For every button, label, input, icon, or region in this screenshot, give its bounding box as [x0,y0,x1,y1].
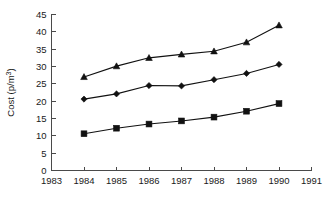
x-tick-label: 1988 [203,175,224,186]
data-point-square [81,131,87,137]
y-tick-label: 25 [36,78,47,89]
data-point-square [211,114,217,120]
y-tick-label: 30 [36,61,47,72]
y-tick-label: 35 [36,44,47,55]
chart-background [0,0,324,198]
line-chart: 051015202530354045 198319841985198619871… [0,0,324,198]
y-tick-label: 15 [36,113,47,124]
y-axis-title: Cost (p/m3) [5,68,16,116]
x-tick-label: 1990 [268,175,289,186]
y-tick-label: 45 [36,9,47,20]
data-point-square [276,101,282,107]
y-tick-label: 20 [36,96,47,107]
data-point-square [244,108,250,114]
y-tick-label: 10 [36,130,47,141]
y-axis-title-text: Cost (p/m3) [5,68,16,116]
y-tick-label: 5 [41,148,46,159]
x-tick-label: 1986 [138,175,159,186]
x-tick-label: 1991 [301,175,322,186]
x-tick-label: 1987 [171,175,192,186]
x-tick-label: 1984 [73,175,94,186]
x-tick-label: 1985 [106,175,127,186]
data-point-square [146,121,152,127]
y-tick-label: 40 [36,26,47,37]
chart-container: 051015202530354045 198319841985198619871… [0,0,324,198]
data-point-square [179,118,185,124]
x-tick-label: 1989 [236,175,257,186]
data-point-square [114,125,120,131]
x-tick-label: 1983 [41,175,62,186]
